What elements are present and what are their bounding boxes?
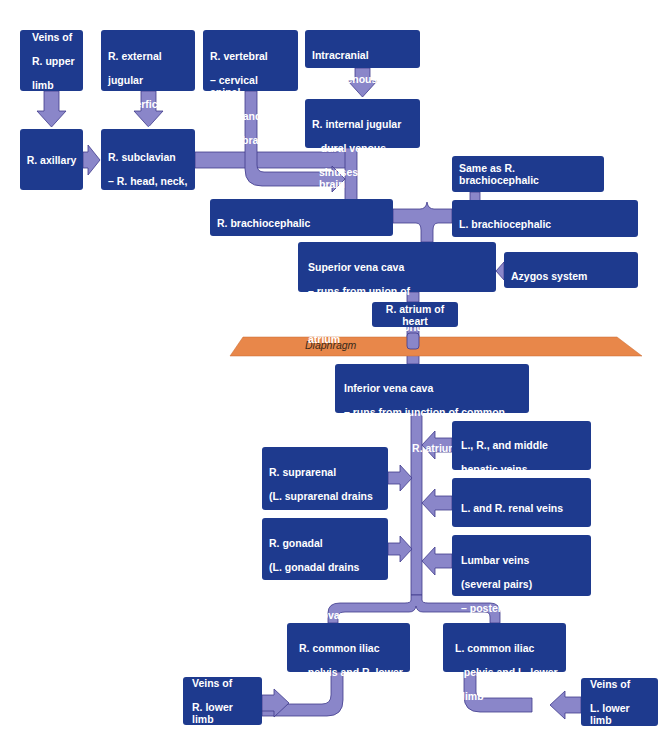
node-r-gonadal: R. gonadal (L. gonadal drains into L. re… — [262, 518, 388, 580]
node-r-brachiocephalic: R. brachiocephalic – R. side of head and… — [210, 199, 393, 236]
node-lumbar-veins: Lumbar veins (several pairs) – posterior… — [452, 535, 591, 596]
node-veins-r-upper-limb: Veins of R. upper limb — [20, 30, 83, 91]
arrow-axillary-to-subclavian — [83, 145, 100, 175]
node-r-common-iliac: R. common iliac – pelvis and R. lower li… — [287, 623, 410, 672]
node-hepatic-veins: L., R., and middle hepatic veins – liver — [452, 421, 591, 470]
arrow-renal-to-ivc — [422, 489, 452, 517]
node-r-axillary: R. axillary — [20, 129, 83, 190]
node-r-suprarenal: R. suprarenal (L. suprarenal drains into… — [262, 447, 388, 510]
node-r-internal-jugular: R. internal jugular – dural venous sinus… — [305, 99, 420, 148]
node-r-external-jugular: R. external jugular – superficial head a… — [101, 30, 195, 91]
node-azygos-system: Azygos system – drains much of thorax — [504, 252, 638, 288]
node-superior-vena-cava: Superior vena cava – runs from union of … — [298, 242, 496, 292]
brace-brachiocephalic-junction — [393, 202, 452, 242]
node-veins-r-lower-limb: Veins of R. lower limb — [183, 677, 262, 725]
arrow-suprarenal-to-ivc — [388, 465, 412, 491]
node-l-brachiocephalic: L. brachiocephalic – L. side of head and… — [452, 200, 638, 237]
node-r-atrium: R. atrium of heart — [372, 302, 458, 327]
node-same-as-r-brachiocephalic: Same as R. brachiocephalic — [452, 156, 604, 192]
node-r-vertebral: R. vertebral – cervical spinal cord and … — [203, 30, 298, 91]
arrow-lumbar-to-ivc — [422, 547, 452, 575]
venous-return-diagram: Diaphragm Veins of R. upper limb R. exte… — [0, 0, 671, 736]
node-r-subclavian: R. subclavian – R. head, neck, and upper… — [101, 129, 195, 190]
node-inferior-vena-cava: Inferior vena cava – runs from junction … — [335, 364, 529, 413]
node-l-common-iliac: L. common iliac – pelvis and L. lower li… — [443, 623, 566, 672]
node-intracranial-sinuses: Intracranial dural venous sinuses — [305, 30, 420, 68]
node-renal-veins: L. and R. renal veins – kidneys — [452, 478, 591, 527]
arrow-gonadal-to-ivc — [388, 536, 412, 562]
node-veins-l-lower-limb: Veins of L. lower limb — [581, 678, 658, 726]
